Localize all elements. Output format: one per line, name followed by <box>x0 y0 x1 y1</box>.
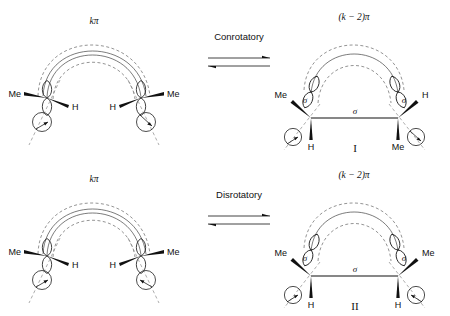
sigma-label-center-2: σ <box>353 264 358 274</box>
product-rotation-arrow-right-2 <box>407 286 424 303</box>
operation-label-conrotatory: Conrotatory <box>214 31 264 42</box>
rotation-arrow-left-2 <box>33 271 52 290</box>
product-right-stereocenter-2: Me H σ <box>389 248 435 310</box>
sigma-label-left: σ <box>303 95 308 105</box>
conrotatory-operation: Conrotatory <box>208 31 270 68</box>
bond-wedge-h-product-right-2 <box>396 276 399 298</box>
equilibrium-arrows-conrotatory <box>208 56 270 69</box>
structure-label-II: II <box>351 300 359 312</box>
sigma-label-right: σ <box>402 95 407 105</box>
bond-wedge-h-left <box>47 98 69 108</box>
label-h-reactant-left: H <box>72 102 79 112</box>
sigma-label-center: σ <box>353 106 358 116</box>
bond-wedge-h-left-2 <box>47 256 69 266</box>
bond-wedge-h-right-2 <box>119 256 141 266</box>
label-h-reactant-right-2: H <box>110 260 117 270</box>
product-rotation-arrow-right <box>407 128 424 145</box>
label-me-reactant-left-2: Me <box>8 247 21 257</box>
sigma-label-left-2: σ <box>303 253 308 263</box>
pi-system-label: kπ <box>90 16 99 26</box>
label-me-reactant-left: Me <box>8 89 21 99</box>
rotation-arrow-left <box>33 113 52 132</box>
label-me-product-left: Me <box>274 90 287 100</box>
disrotatory-reactant-structure: kπ Me H Me H <box>8 174 179 303</box>
bond-wedge-me-product-right <box>396 118 399 140</box>
operation-label-disrotatory: Disrotatory <box>216 189 262 200</box>
product-right-stereocenter: H Me σ <box>389 90 429 152</box>
product-pi-label: (k − 2)π <box>338 12 369 23</box>
label-h-product-left: H <box>308 142 315 152</box>
product-pi-arcs <box>304 45 404 103</box>
pi-system-label-2: kπ <box>90 174 99 184</box>
disrotatory-operation: Disrotatory <box>208 189 270 226</box>
bond-wedge-me-product-left <box>291 100 312 118</box>
product-rotation-arrow-left <box>284 128 301 145</box>
label-h-product-right-2: H <box>395 300 402 310</box>
conrotatory-row: kπ Me H Me H <box>8 12 428 154</box>
rotation-arrow-right-2 <box>137 271 156 290</box>
equilibrium-arrows-disrotatory <box>208 214 270 227</box>
product-rotation-arrow-left-2 <box>284 286 301 303</box>
conrotatory-product-structure: (k − 2)π σ Me H σ <box>274 12 428 154</box>
label-me-product-right-2: Me <box>422 248 435 258</box>
conrotatory-reactant-structure: kπ Me H Me H <box>8 16 179 145</box>
label-h-product-left-2: H <box>308 300 315 310</box>
product-left-stereocenter: Me H σ <box>274 90 320 152</box>
label-h-product-right: H <box>422 90 429 100</box>
label-me-reactant-right-2: Me <box>167 247 180 257</box>
sigma-label-right-2: σ <box>402 253 407 263</box>
bond-wedge-me-product-left-2 <box>291 258 312 276</box>
bond-wedge-h-right <box>119 98 141 108</box>
disrotatory-row: kπ Me H Me H <box>8 170 434 312</box>
disrotatory-product-structure: (k − 2)π σ Me H σ <box>274 170 434 312</box>
product-pi-arcs-2 <box>304 203 404 261</box>
label-h-reactant-right: H <box>110 102 117 112</box>
bond-wedge-h-product-left-2 <box>309 276 312 298</box>
label-me-product-right: Me <box>392 142 405 152</box>
label-h-reactant-left-2: H <box>72 260 79 270</box>
product-left-stereocenter-2: Me H σ <box>274 248 320 310</box>
label-me-reactant-right: Me <box>167 89 180 99</box>
electrocyclic-reaction-figure: kπ Me H Me H <box>0 0 450 316</box>
bond-wedge-h-product-left <box>309 118 312 140</box>
product-pi-label-2: (k − 2)π <box>338 170 369 181</box>
label-me-product-left-2: Me <box>274 248 287 258</box>
rotation-arrow-right <box>137 113 156 132</box>
structure-label-I: I <box>353 142 357 154</box>
